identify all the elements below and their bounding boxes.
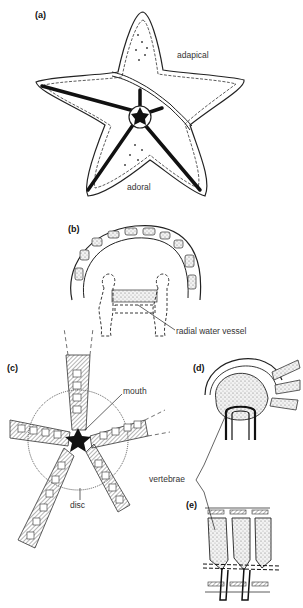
vertebra-cross-section-diagram [205,359,300,440]
panel-label-d: (d) [193,363,205,373]
starfish-diagram [36,12,244,196]
vertebrae-longitudinal-diagram [203,508,280,600]
label-vertebrae: vertebrae [149,474,185,484]
panel-label-b: (b) [68,224,80,234]
panel-label-e: (e) [186,500,197,510]
diagram-canvas [0,0,303,608]
brittle-star-oral-diagram [10,328,170,548]
arm-cross-section-diagram [71,226,201,336]
label-radial-water-vessel: radial water vessel [176,326,246,336]
label-adoral: adoral [127,182,151,192]
label-mouth: mouth [123,386,147,396]
label-adapical: adapical [177,50,209,60]
panel-label-c: (c) [7,363,18,373]
panel-label-a: (a) [35,10,46,20]
label-disc: disc [70,500,85,510]
